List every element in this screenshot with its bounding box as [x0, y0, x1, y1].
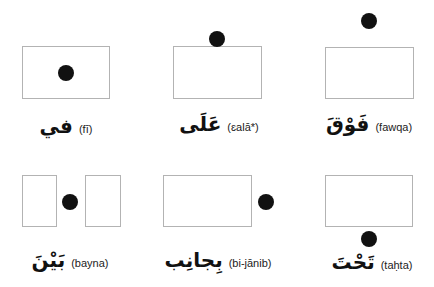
label-bayna: بَيْنَ (bayna) — [32, 248, 109, 272]
label-bi-janib: بِجانِب (bi-jānib) — [165, 248, 272, 272]
arabic-word: عَلَى — [179, 112, 221, 136]
box-left — [22, 175, 57, 227]
arabic-word: في — [40, 114, 73, 138]
label-fawqa: فَوْقَ (fawqa) — [326, 112, 412, 136]
label-tahta: تَحْتَ (taḥta) — [332, 250, 413, 274]
arabic-word: فَوْقَ — [326, 112, 370, 136]
transliteration: (bayna) — [71, 257, 108, 269]
dot-between — [62, 194, 78, 210]
label-ala: عَلَى (ɛalā*) — [179, 112, 258, 136]
dot-on-top — [209, 31, 225, 47]
dot-above — [361, 13, 377, 29]
arabic-word: تَحْتَ — [332, 250, 375, 274]
transliteration: (fī) — [79, 123, 92, 135]
box — [325, 47, 414, 99]
dot-below — [361, 231, 377, 247]
transliteration: (ɛalā*) — [227, 121, 258, 133]
transliteration: (fawqa) — [375, 121, 412, 133]
label-fi: في (fī) — [40, 114, 93, 138]
transliteration: (bi-jānib) — [229, 257, 272, 269]
transliteration: (taḥta) — [381, 259, 413, 271]
dot-beside — [258, 194, 274, 210]
box — [325, 175, 413, 227]
box — [173, 46, 262, 99]
box-right — [85, 175, 121, 227]
arabic-word: بَيْنَ — [32, 248, 66, 272]
arabic-word: بِجانِب — [165, 248, 223, 272]
dot-inside — [58, 65, 74, 81]
box — [163, 175, 252, 227]
